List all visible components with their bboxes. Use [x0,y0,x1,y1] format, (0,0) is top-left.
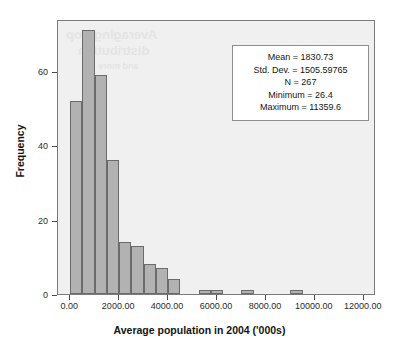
y-tick-mark [52,72,57,73]
statistics-box: Mean = 1830.73 Std. Dev. = 1505.59765 N … [232,45,369,121]
histogram-bar [70,101,82,294]
histogram-bar [107,160,119,294]
histogram-bar [82,30,94,294]
y-tick-mark [52,146,57,147]
y-tick-label: 20 [38,216,48,226]
histogram-bar [168,279,180,294]
y-tick-label: 0 [43,290,48,300]
x-tick-label: 8000.00 [249,301,282,311]
stat-n: N = 267 [237,76,364,89]
x-tick-label: 10000.00 [295,301,333,311]
x-tick-mark [314,295,315,300]
y-tick-mark [52,295,57,296]
stat-std-dev: Std. Dev. = 1505.59765 [237,64,364,77]
x-tick-label: 0.00 [60,301,78,311]
x-tick-mark [167,295,168,300]
x-tick-mark [363,295,364,300]
watermark-text-1: Averaging Pop [66,27,157,42]
x-tick-mark [216,295,217,300]
y-tick-mark [52,221,57,222]
y-tick-label: 60 [38,67,48,77]
stat-minimum: Minimum = 26.4 [237,89,364,102]
histogram-bar [156,268,168,294]
x-tick-label: 4000.00 [151,301,184,311]
histogram-bar [241,290,253,294]
x-tick-mark [118,295,119,300]
x-tick-label: 12000.00 [344,301,382,311]
histogram-bar [290,290,302,294]
histogram-figure: Averaging Pop distribution and more 0204… [0,0,399,353]
x-tick-label: 6000.00 [200,301,233,311]
x-tick-mark [265,295,266,300]
stat-maximum: Maximum = 11359.6 [237,101,364,114]
histogram-bar [95,75,107,294]
stat-mean: Mean = 1830.73 [237,51,364,64]
histogram-bar [211,290,223,294]
histogram-bar [144,264,156,294]
histogram-bar [131,246,143,294]
histogram-bar [119,242,131,294]
x-axis-title: Average population in 2004 ('000s) [0,324,399,336]
x-tick-mark [69,295,70,300]
y-axis-title: Frequency [14,101,26,201]
y-tick-label: 40 [38,141,48,151]
watermark-text-3: and more [98,61,139,71]
histogram-bar [199,290,211,294]
x-tick-label: 2000.00 [102,301,135,311]
